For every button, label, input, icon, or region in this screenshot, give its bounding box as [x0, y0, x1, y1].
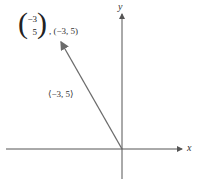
y-axis-label: y [118, 1, 122, 12]
x-axis-label: x [187, 142, 191, 153]
column-vector-top: −3 [23, 14, 37, 24]
right-paren: ) [37, 8, 47, 38]
column-vector-bottom: 5 [23, 27, 37, 37]
vector-mid-label: ⟨−3, 5⟩ [48, 89, 74, 99]
vector-tip-label: , (−3, 5) [49, 26, 78, 36]
